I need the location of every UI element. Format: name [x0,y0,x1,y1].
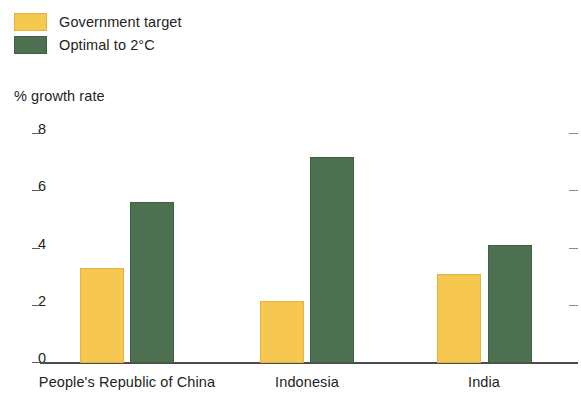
bar-china-optimal-2c [130,202,174,363]
y-tick-mark-0 [32,362,40,363]
bar-indonesia-government-target [260,301,304,363]
bar-china-government-target [80,268,124,363]
y-tick-mark-2 [32,305,40,306]
x-axis-label-china: People's Republic of China [27,374,227,390]
bar-india-government-target [437,274,481,363]
y-tick-4: 4 [6,237,46,252]
y-tick-8: 8 [6,122,46,137]
chart-figure: Government target Optimal to 2°C % growt… [0,0,581,396]
y-tick-mark-4 [32,248,40,249]
y-tick-mark-6 [32,190,40,191]
y-tick-mark-right-2 [569,305,578,306]
y-tick-2: 2 [6,294,46,309]
x-axis-label-indonesia: Indonesia [247,374,367,390]
y-tick-mark-right-6 [569,190,578,191]
x-axis-label-india: India [434,374,534,390]
plot-area: 8 6 4 2 0 [0,0,581,396]
bar-indonesia-optimal-2c [310,157,354,363]
bar-india-optimal-2c [488,245,532,363]
y-tick-mark-right-4 [569,248,578,249]
y-tick-6: 6 [6,179,46,194]
y-tick-mark-8 [32,133,40,134]
y-tick-mark-right-8 [569,133,578,134]
